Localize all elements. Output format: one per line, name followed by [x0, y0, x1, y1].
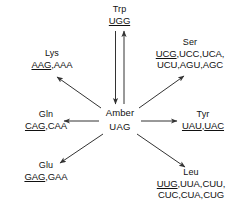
node-ser-name: Ser	[146, 37, 234, 48]
codon-ugg: UGG	[109, 15, 130, 26]
node-trp-codons: UGG	[97, 15, 142, 26]
node-tyr-name: Tyr	[172, 109, 234, 120]
arrow-amber-to-leu	[137, 134, 185, 167]
node-lys-name: Lys	[14, 48, 90, 59]
node-gln-codons: CAG,CAA	[8, 120, 84, 131]
codon-caa: ,CAA	[45, 120, 67, 131]
codon-cag: CAG	[25, 120, 45, 131]
codon-uau: UAU	[182, 120, 202, 131]
node-lys: Lys AAG,AAA	[14, 48, 90, 70]
node-trp-name: Trp	[97, 4, 142, 15]
node-ser-codons-line1: UCG,UCC,UCA,	[146, 48, 234, 59]
node-leu-name: Leu	[147, 167, 235, 178]
codon-uua-cuu: ,UUA,CUU,	[178, 178, 226, 189]
node-leu: Leu UUG,UUA,CUU, CUC,CUA,CUG	[147, 167, 235, 200]
codon-uac: UAC	[204, 120, 224, 131]
node-amber-center: Amber UAG	[94, 106, 146, 134]
node-glu-codons: GAG,GAA	[8, 171, 84, 182]
node-ser-codons-line2: UCU,AGU,AGC	[146, 59, 234, 70]
codon-gaa: ,GAA	[45, 171, 67, 182]
node-amber-name: Amber	[94, 106, 146, 120]
node-ser: Ser UCG,UCC,UCA, UCU,AGU,AGC	[146, 37, 234, 70]
node-leu-codons-line2: CUC,CUA,CUG	[147, 189, 235, 200]
codon-uug: UUG	[157, 178, 178, 189]
node-glu-name: Glu	[8, 160, 84, 171]
codon-gag: GAG	[24, 171, 45, 182]
node-lys-codons: AAG,AAA	[14, 59, 90, 70]
arrow-amber-to-lys	[57, 77, 101, 108]
node-trp: Trp UGG	[97, 4, 142, 26]
arrow-amber-to-ser	[139, 76, 184, 108]
codon-ucc-uca: ,UCC,UCA,	[177, 48, 225, 59]
codon-aaa: ,AAA	[51, 59, 72, 70]
arrow-amber-to-glu	[60, 134, 103, 163]
amber-suppressor-diagram: Trp UGG Lys AAG,AAA Ser UCG,UCC,UCA, UCU…	[0, 0, 237, 207]
node-amber-codon: UAG	[94, 120, 146, 134]
codon-aag: AAG	[31, 59, 51, 70]
node-tyr-codons: UAU,UAC	[172, 120, 234, 131]
node-gln-name: Gln	[8, 109, 84, 120]
node-tyr: Tyr UAU,UAC	[172, 109, 234, 131]
node-gln: Gln CAG,CAA	[8, 109, 84, 131]
node-leu-codons-line1: UUG,UUA,CUU,	[147, 178, 235, 189]
node-glu: Glu GAG,GAA	[8, 160, 84, 182]
codon-ucg: UCG	[156, 48, 177, 59]
